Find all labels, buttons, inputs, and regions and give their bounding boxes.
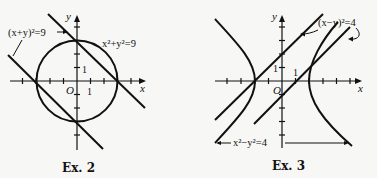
lines-equation-label: (x+y)²=9 — [8, 27, 46, 39]
y-axis-label: y — [65, 10, 71, 22]
caption-ex3: Ex. 3 — [272, 159, 305, 173]
hyperbola-equation-label: x²−y²=4 — [233, 137, 268, 148]
line-x-plus-y-eq-3 — [48, 14, 145, 108]
figure-ex2: y x O 1 1 (x+y)²=9 x²+y²=9 Ex. 2 — [8, 10, 146, 175]
circle-equation-label: x²+y²=9 — [102, 38, 136, 49]
y-tick-label: 1 — [273, 63, 278, 74]
leader-line — [13, 40, 22, 56]
lines-equation-label: (x−y)²=4 — [318, 17, 356, 29]
x-tick-label: 1 — [87, 86, 92, 97]
y-axis-arrow-icon — [74, 15, 80, 22]
x-axis-label: x — [357, 82, 363, 94]
line-x-minus-y-eq-neg2 — [215, 14, 323, 120]
origin-label: O — [66, 84, 74, 96]
x-axis-label: x — [139, 82, 145, 94]
diagram-canvas: y x O 1 1 (x+y)²=9 x²+y²=9 Ex. 2 — [0, 0, 377, 178]
hyperbola-right-branch — [309, 22, 352, 146]
figure-ex3: y x O 1 1 (x−y)²=4 x²−y²=4 Ex. 3 — [215, 10, 363, 173]
y-axis-arrow-icon — [279, 15, 285, 22]
line-x-plus-y-eq-neg3 — [8, 55, 103, 149]
x-tick-label: 1 — [293, 67, 298, 78]
line-x-minus-y-eq-2 — [254, 27, 350, 124]
caption-ex2: Ex. 2 — [62, 161, 95, 175]
y-axis-label: y — [271, 10, 277, 22]
y-tick-label: 1 — [82, 64, 87, 75]
origin-label: O — [273, 84, 281, 96]
